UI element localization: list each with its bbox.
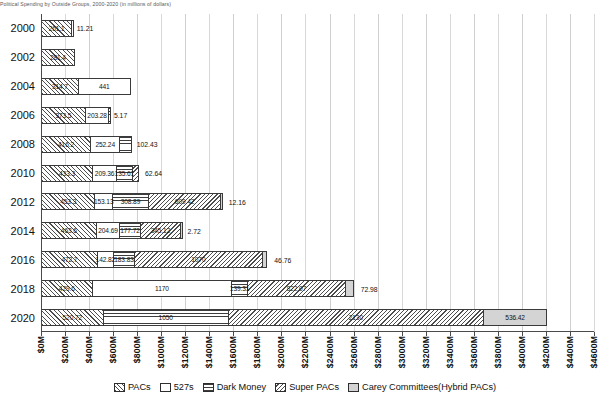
y-axis-tick-label: 2010: [11, 167, 35, 179]
bar-segment-carey[interactable]: [262, 251, 268, 268]
bar-segment-super[interactable]: 822.07: [247, 280, 346, 297]
segment-value-label: 1050: [158, 314, 174, 321]
bar-segment-carey[interactable]: [345, 280, 354, 297]
bar-row: 20065.17373.5203.28: [41, 107, 594, 124]
segment-value-label: 281.4: [49, 54, 67, 61]
chart-title: Political Spending by Outside Groups, 20…: [0, 0, 610, 9]
segment-value-label: 416.2: [57, 141, 75, 148]
x-axis-tick-label: $3200M: [421, 336, 431, 368]
bar-segment-pacs[interactable]: 416.2: [41, 136, 91, 153]
bar-rows: 200011.21261.12002281.42004314.744120065…: [41, 14, 594, 332]
legend-item-dark[interactable]: Dark Money: [203, 382, 267, 392]
y-axis-tick-label: 2002: [11, 51, 35, 63]
x-axis-tick-label: $2800M: [373, 336, 383, 368]
legend-item-carey[interactable]: Carey Committees(Hybrid PACs): [348, 382, 496, 392]
x-axis-ticks: [41, 332, 594, 335]
stacked-bar[interactable]: 429.61170139.31822.07: [41, 280, 354, 297]
segment-value-label: 5.17: [111, 112, 127, 119]
bar-segment-carey[interactable]: 536.42: [483, 309, 547, 326]
legend-label: PACs: [128, 382, 151, 392]
segment-value-label: 102.43: [134, 141, 158, 148]
legend-label: Super PACs: [289, 382, 339, 392]
y-axis-tick-label: 2012: [11, 196, 35, 208]
x-axis-tick-label: $400M: [84, 336, 94, 363]
legend-swatch-pacs: [114, 383, 125, 392]
legend-item-super[interactable]: Super PACs: [275, 382, 339, 392]
x-axis-tick-label: $800M: [132, 336, 142, 363]
stacked-bar[interactable]: 472.7142.82183.831070: [41, 251, 267, 268]
x-axis-tick-label: $2200M: [300, 336, 310, 368]
segment-value-label: 1070: [190, 256, 206, 263]
stacked-bar[interactable]: 416.2252.24: [41, 136, 132, 153]
bar-segment-dark[interactable]: 1050: [103, 309, 229, 326]
bar-segment-pacs[interactable]: 429.6: [41, 280, 93, 297]
bar-segment-pacs[interactable]: 453.3: [41, 193, 95, 210]
segment-value-label: 153.13: [93, 198, 115, 205]
bar-segment-pacs[interactable]: 463.6: [41, 222, 97, 239]
bar-segment-dark[interactable]: 308.89: [112, 193, 149, 210]
bar-segment-dark[interactable]: [108, 107, 111, 124]
stacked-bar[interactable]: 433.3209.36135.61: [41, 165, 139, 182]
bar-segment-dark[interactable]: 183.83: [113, 251, 135, 268]
x-axis-tick-label: $1600M: [228, 336, 238, 368]
chart-root: Political Spending by Outside Groups, 20…: [0, 0, 610, 401]
segment-value-label: 12.16: [226, 198, 246, 205]
y-axis-tick-label: 2020: [11, 312, 35, 324]
legend-item-pacs[interactable]: PACs: [114, 382, 151, 392]
bar-segment-pacs[interactable]: 314.7: [41, 78, 79, 95]
bar-row: 201646.76472.7142.82183.831070: [41, 251, 594, 268]
stacked-bar[interactable]: 453.3153.13308.89609.42: [41, 193, 223, 210]
y-axis-tick-label: 2000: [11, 22, 35, 34]
segment-value-label: 472.7: [60, 256, 78, 263]
x-axis-tick-label: $4400M: [565, 336, 575, 368]
bar-segment-pacs[interactable]: 472.7: [41, 251, 98, 268]
bar-segment-pacs[interactable]: 261.1: [41, 20, 72, 37]
y-axis-tick-label: 2018: [11, 283, 35, 295]
segment-value-label: 314.7: [51, 83, 69, 90]
bar-segment-dark[interactable]: [119, 136, 131, 153]
segment-value-label: 345.12: [150, 227, 172, 234]
x-axis-tick-label: $3400M: [445, 336, 455, 368]
bar-segment-527s[interactable]: 153.13: [94, 193, 112, 210]
bar-segment-pacs[interactable]: 433.3: [41, 165, 93, 182]
legend-swatch-dark: [203, 383, 214, 392]
bar-segment-527s[interactable]: 203.28: [85, 107, 109, 124]
x-axis-tick-label: $1400M: [204, 336, 214, 368]
bar-segment-pacs[interactable]: 281.4: [41, 49, 75, 66]
stacked-bar[interactable]: 261.1: [41, 20, 74, 37]
bar-segment-527s[interactable]: [71, 20, 74, 37]
segment-value-label: 609.42: [174, 198, 196, 205]
bar-segment-dark[interactable]: 139.31: [231, 280, 248, 297]
x-axis-tick-label: $200M: [60, 336, 70, 363]
legend-label: Carey Committees(Hybrid PACs): [362, 382, 496, 392]
bar-segment-pacs[interactable]: 373.5: [41, 107, 86, 124]
stacked-bar[interactable]: 373.5203.28: [41, 107, 111, 124]
bar-row: 201872.98429.61170139.31822.07: [41, 280, 594, 297]
legend-item-527s[interactable]: 527s: [160, 382, 194, 392]
bar-segment-super[interactable]: 609.42: [148, 193, 221, 210]
bar-segment-dark[interactable]: 135.61: [116, 165, 132, 182]
segment-value-label: 429.6: [58, 285, 76, 292]
bar-segment-carey[interactable]: [180, 222, 183, 239]
bar-segment-527s[interactable]: 441: [78, 78, 131, 95]
segment-value-label: 308.89: [120, 198, 142, 205]
bar-segment-527s[interactable]: 252.24: [90, 136, 120, 153]
segment-value-label: 46.76: [271, 256, 291, 263]
stacked-bar[interactable]: 314.7441: [41, 78, 131, 95]
bar-segment-carey[interactable]: [220, 193, 223, 210]
bar-segment-527s[interactable]: 142.82: [97, 251, 114, 268]
segment-value-label: 822.07: [286, 285, 308, 292]
stacked-bar[interactable]: 281.4: [41, 49, 75, 66]
bar-segment-527s[interactable]: 1170: [92, 280, 233, 297]
stacked-bar[interactable]: 463.6204.69177.72345.12: [41, 222, 183, 239]
bar-segment-super[interactable]: 2130: [228, 309, 484, 326]
bar-segment-super[interactable]: 1070: [134, 251, 263, 268]
segment-value-label: 252.24: [94, 141, 116, 148]
stacked-bar[interactable]: 520.7210502130536.42: [41, 309, 547, 326]
bar-segment-super[interactable]: 345.12: [140, 222, 181, 239]
bar-segment-pacs[interactable]: 520.72: [41, 309, 104, 326]
bar-segment-527s[interactable]: 204.69: [96, 222, 121, 239]
bar-segment-dark[interactable]: 177.72: [119, 222, 140, 239]
segment-value-label: 2.72: [185, 227, 201, 234]
x-axis-tick-label: $600M: [108, 336, 118, 363]
